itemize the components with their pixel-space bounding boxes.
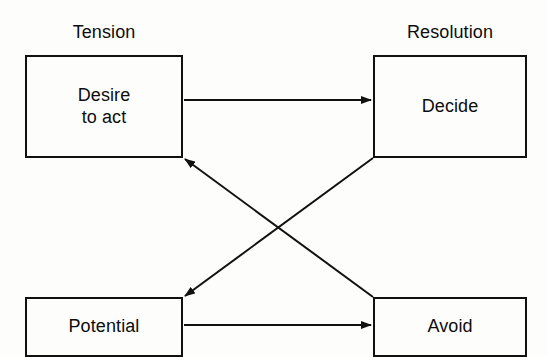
- node-label-desire-to-act: Desire to act: [78, 85, 131, 129]
- group-caption-resolution: Resolution: [373, 22, 527, 43]
- node-avoid[interactable]: Avoid: [373, 297, 527, 357]
- node-label-avoid: Avoid: [427, 316, 472, 338]
- node-label-potential: Potential: [69, 316, 140, 338]
- node-potential[interactable]: Potential: [25, 297, 183, 357]
- group-caption-tension: Tension: [25, 22, 183, 43]
- node-desire-to-act[interactable]: Desire to act: [25, 55, 183, 158]
- node-label-decide: Decide: [422, 96, 479, 118]
- node-decide[interactable]: Decide: [373, 55, 527, 158]
